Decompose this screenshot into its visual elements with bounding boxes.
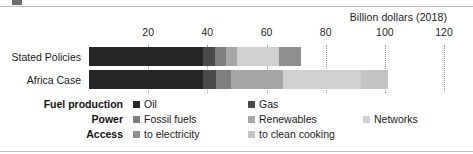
- legend-swatch-icon: [133, 131, 140, 138]
- legend-item-fossil-fuels[interactable]: Fossil fuels: [133, 113, 197, 125]
- category-label-stated-policies: Stated Policies: [12, 51, 81, 63]
- legend-group-title-power: Power: [0, 113, 123, 125]
- bar-segment-gas[interactable]: [203, 70, 216, 89]
- legend-item-renewables[interactable]: Renewables: [248, 113, 317, 125]
- x-tick-label-120: 120: [435, 26, 453, 38]
- legend-swatch-icon: [248, 131, 255, 138]
- legend-row-fuel-production: Fuel productionOilGas: [0, 97, 473, 111]
- legend-swatch-icon: [248, 116, 255, 123]
- chart-legend: Fuel productionOilGasPowerFossil fuelsRe…: [0, 97, 473, 145]
- gridline-120: [444, 45, 445, 93]
- x-tick-label-20: 20: [142, 26, 154, 38]
- legend-swatch-icon: [248, 101, 255, 108]
- legend-item-label: to clean cooking: [259, 128, 335, 140]
- legend-item-label: Gas: [259, 98, 278, 110]
- legend-item-to-electricity[interactable]: to electricity: [133, 128, 199, 140]
- legend-item-label: Renewables: [259, 113, 317, 125]
- chart-container: Billion dollars (2018) 20406080100120 St…: [0, 0, 473, 154]
- category-label-africa-case: Africa Case: [27, 74, 81, 86]
- bottom-divider: [0, 151, 473, 152]
- legend-swatch-icon: [133, 101, 140, 108]
- bar-segment-gas[interactable]: [203, 47, 215, 66]
- bar-segment-oil[interactable]: [89, 47, 203, 66]
- top-left-artifact: [12, 0, 22, 5]
- bar-segment-oil[interactable]: [89, 70, 203, 89]
- plot-area: [89, 45, 444, 93]
- axis-unit-label: Billion dollars (2018): [350, 11, 447, 23]
- legend-item-to-clean-cooking[interactable]: to clean cooking: [248, 128, 335, 140]
- legend-item-label: Fossil fuels: [144, 113, 197, 125]
- bar-segment-networks[interactable]: [283, 70, 360, 89]
- legend-item-gas[interactable]: Gas: [248, 98, 278, 110]
- x-tick-label-80: 80: [320, 26, 332, 38]
- bar-segment-renewables[interactable]: [231, 70, 283, 89]
- legend-item-label: Networks: [374, 113, 418, 125]
- x-tick-label-60: 60: [261, 26, 273, 38]
- top-divider: [0, 6, 473, 7]
- x-tick-label-40: 40: [201, 26, 213, 38]
- bar-segment-networks[interactable]: [237, 47, 279, 66]
- legend-swatch-icon: [363, 116, 370, 123]
- bar-segment-renewables[interactable]: [226, 47, 237, 66]
- legend-group-title-access: Access: [0, 128, 123, 140]
- bar-segment-to-clean-cooking[interactable]: [361, 70, 388, 89]
- legend-row-access: Accessto electricityto clean cooking: [0, 127, 473, 141]
- bar-segment-fossil-fuels[interactable]: [216, 70, 231, 89]
- legend-row-power: PowerFossil fuelsRenewablesNetworks: [0, 112, 473, 126]
- legend-swatch-icon: [133, 116, 140, 123]
- x-tick-label-100: 100: [376, 26, 394, 38]
- legend-item-networks[interactable]: Networks: [363, 113, 418, 125]
- legend-item-label: to electricity: [144, 128, 199, 140]
- bar-segment-to-electricity[interactable]: [279, 47, 300, 66]
- legend-item-label: Oil: [144, 98, 157, 110]
- legend-item-oil[interactable]: Oil: [133, 98, 157, 110]
- category-axis-labels: Stated Policies Africa Case: [0, 45, 85, 93]
- bar-segment-fossil-fuels[interactable]: [215, 47, 226, 66]
- legend-group-title-fuel-production: Fuel production: [0, 98, 123, 110]
